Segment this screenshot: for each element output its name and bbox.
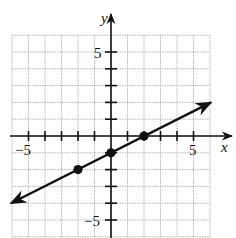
data-point <box>139 131 148 140</box>
data-point <box>73 165 82 174</box>
y-tick-label-5: 5 <box>94 45 102 61</box>
x-tick-label-neg5: −5 <box>15 142 31 158</box>
y-tick-label-neg5: −5 <box>84 213 100 229</box>
x-axis-label: x <box>220 139 228 155</box>
data-point <box>106 148 115 157</box>
coordinate-plane: y x −5 5 5 −5 <box>0 0 236 238</box>
x-tick-label-5: 5 <box>189 142 197 158</box>
axes <box>10 14 232 238</box>
y-axis-label: y <box>99 10 108 26</box>
